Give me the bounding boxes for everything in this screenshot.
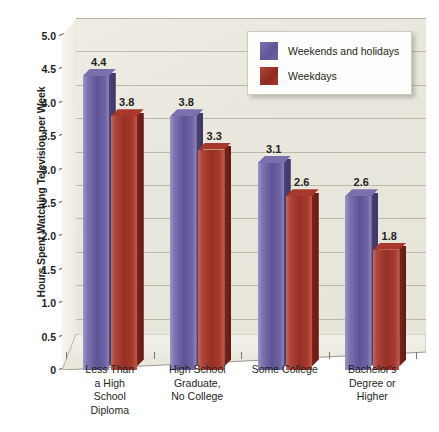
bar-value-label: 3.3 [194,130,234,142]
y-axis-tick-label: 0.5 [26,332,56,342]
x-axis-tick-mark [416,352,417,359]
legend-item-weekends: Weekends and holidays [260,42,399,60]
y-axis-tick-label: 1.5 [26,265,56,275]
bar-front-face [83,76,109,370]
bar-value-label: 2.6 [282,176,322,188]
x-axis-category-label-line: Graduate, [151,377,243,391]
bar-weekends [83,76,109,370]
x-axis-category-label: Some College [239,363,331,377]
legend-label-weekdays: Weekdays [288,70,337,82]
bar-weekdays [286,196,312,370]
bar-value-label: 3.8 [107,96,147,108]
x-axis-category-label: High SchoolGraduate,No College [151,363,243,404]
bar-side-face [399,246,406,366]
x-axis-tick-mark [154,352,155,359]
y-axis-tick-label: 5.0 [26,31,56,41]
x-axis-tick-mark [66,352,67,359]
x-axis-tick-mark [241,352,242,359]
x-axis-category-label-line: High School [151,363,243,377]
y-axis-tick-label: 4.0 [26,98,56,108]
bar-value-label: 2.6 [341,176,381,188]
bar-chart: Hours Spent Watching Television per Week… [0,0,439,432]
bar-front-face [345,196,371,370]
x-axis-category-label-line: Diploma [64,404,156,418]
bar-weekdays [111,116,137,370]
bar-front-face [258,163,284,370]
bar-front-face [111,116,137,370]
red-swatch-icon [260,67,278,85]
x-axis-category-label-line: School [64,390,156,404]
x-axis-tick-mark [329,352,330,359]
x-axis-category-label-line: Degree or [326,377,418,391]
y-axis-tick-label: 2.0 [26,231,56,241]
y-axis-tick-label: 3.0 [26,165,56,175]
bar-value-label: 1.8 [369,230,409,242]
gridline [76,18,426,19]
x-axis-category-label: Less Thana HighSchoolDiploma [64,363,156,417]
y-axis-tick-labels: 5.04.54.03.53.02.52.01.51.00.50 [26,0,56,432]
bar-weekends [170,116,196,370]
bar-value-label: 3.1 [254,143,294,155]
y-axis-tick-label: 1.0 [26,298,56,308]
bar-weekends [258,163,284,370]
x-axis-category-label-line: Higher [326,390,418,404]
bar-front-face [170,116,196,370]
bar-weekends [345,196,371,370]
x-axis-category-label-line: Some College [239,363,331,377]
y-axis-tick-label: 2.5 [26,198,56,208]
legend-item-weekdays: Weekdays [260,67,337,85]
x-axis-category-label-line: Bachelor's [326,363,418,377]
bar-side-face [224,146,231,366]
y-axis-tick-label: 3.5 [26,131,56,141]
bar-weekdays [373,250,399,370]
x-axis-category-label-line: No College [151,390,243,404]
x-axis-category-label: Bachelor'sDegree orHigher [326,363,418,404]
plot-left-wall [62,18,77,370]
chart-legend: Weekends and holidays Weekdays [247,31,412,95]
bar-value-label: 3.8 [166,96,206,108]
x-axis-category-label-line: a High [64,377,156,391]
y-axis-tick-label: 4.5 [26,64,56,74]
bar-side-face [312,193,319,367]
y-axis-tick-label: 0 [26,365,56,375]
bar-weekdays [198,150,224,370]
bar-value-label: 4.4 [79,56,119,68]
bar-front-face [286,196,312,370]
bar-front-face [373,250,399,370]
legend-label-weekends: Weekends and holidays [288,45,399,57]
bar-front-face [198,150,224,370]
x-axis-category-label-line: Less Than [64,363,156,377]
purple-swatch-icon [260,42,278,60]
bar-side-face [137,113,144,367]
